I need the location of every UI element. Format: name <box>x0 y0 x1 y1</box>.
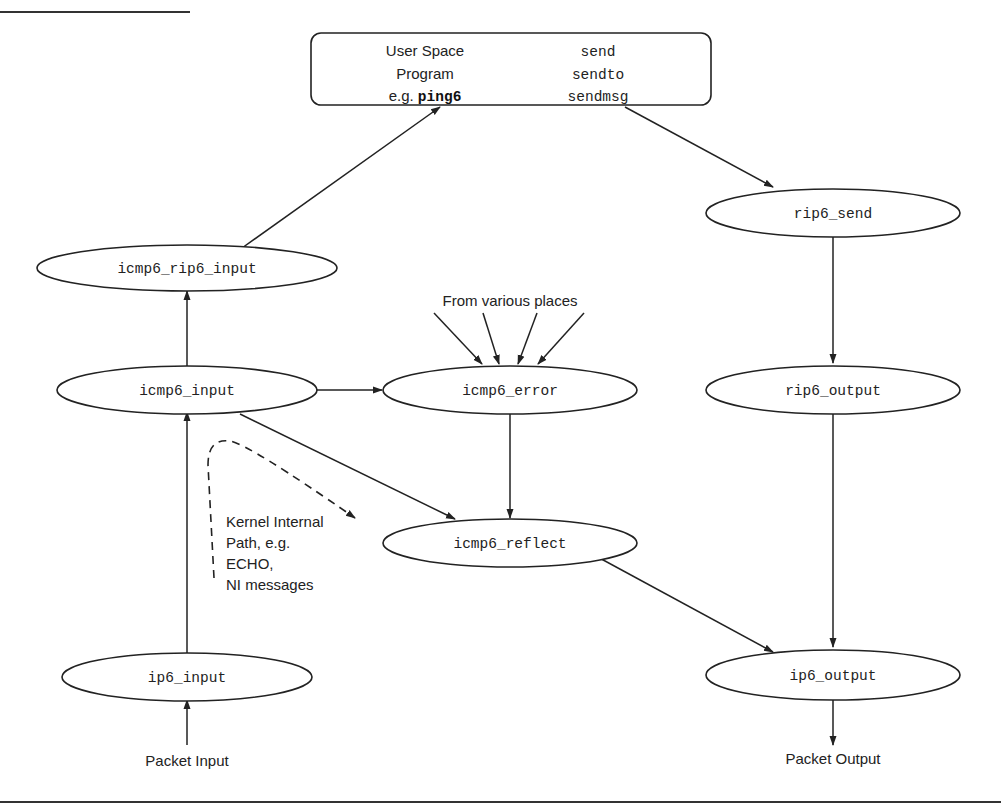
svg-text:ip6_output: ip6_output <box>789 668 876 684</box>
send-label: send <box>581 44 616 60</box>
user-program-line-2: Program <box>396 65 454 82</box>
packet-input-label: Packet Input <box>145 752 229 769</box>
node-icmp6-reflect: icmp6_reflect <box>383 519 637 567</box>
node-rip6-output: rip6_output <box>706 366 960 414</box>
sendto-label: sendto <box>572 67 624 83</box>
edge-various-3 <box>518 313 537 364</box>
sendmsg-label: sendmsg <box>568 89 629 105</box>
from-various-places-label: From various places <box>442 292 577 309</box>
svg-text:icmp6_reflect: icmp6_reflect <box>453 536 566 552</box>
node-ip6-output: ip6_output <box>706 650 960 700</box>
node-icmp6-input: icmp6_input <box>57 366 317 414</box>
edge-icmp6-input-to-reflect <box>240 414 455 519</box>
svg-text:icmp6_input: icmp6_input <box>139 383 235 399</box>
user-space-program-box: User Space Program e.g. ping6 send sendt… <box>311 33 711 105</box>
ping6-label: ping6 <box>418 89 462 105</box>
user-program-line-1: User Space <box>386 42 464 59</box>
user-program-line-3: e.g. ping6 <box>389 87 462 105</box>
edge-various-2 <box>483 313 499 364</box>
node-icmp6-rip6-input: icmp6_rip6_input <box>37 245 337 291</box>
edge-user-to-rip6-send <box>625 107 773 187</box>
kernel-path-line-1: Kernel Internal <box>226 513 324 530</box>
svg-text:rip6_output: rip6_output <box>785 383 881 399</box>
svg-text:icmp6_rip6_input: icmp6_rip6_input <box>117 261 256 277</box>
icmpv6-flow-diagram: User Space Program e.g. ping6 send sendt… <box>0 0 1001 805</box>
kernel-path-line-3: ECHO, <box>226 555 274 572</box>
edge-rip6-input-to-user <box>242 107 440 248</box>
svg-text:rip6_send: rip6_send <box>794 206 872 222</box>
kernel-path-line-2: Path, e.g. <box>226 534 290 551</box>
node-rip6-send: rip6_send <box>706 189 960 237</box>
node-icmp6-error: icmp6_error <box>383 366 637 414</box>
edge-various-4 <box>538 313 584 364</box>
packet-output-label: Packet Output <box>785 750 881 767</box>
kernel-path-line-4: NI messages <box>226 576 314 593</box>
edge-various-1 <box>434 313 482 364</box>
svg-text:ip6_input: ip6_input <box>148 670 226 686</box>
node-ip6-input: ip6_input <box>62 653 312 701</box>
svg-text:icmp6_error: icmp6_error <box>462 383 558 399</box>
